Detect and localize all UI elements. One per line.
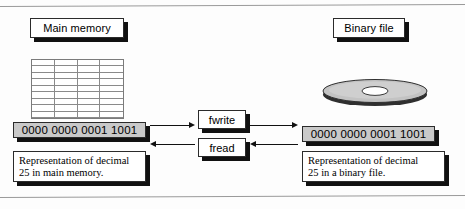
memory-cell [55, 112, 78, 118]
caption-binary-file-line2: 25 in a binary file. [308, 167, 439, 179]
main-memory-grid [31, 59, 124, 119]
arrow-fread-to-memory [150, 141, 195, 148]
disk-platter-icon [322, 78, 428, 108]
memory-binary-bar: 0000 0000 0001 1001 [13, 122, 146, 138]
file-binary-bar: 0000 0000 0001 1001 [302, 126, 435, 142]
figure-canvas: Main memory Binary file 0000 0000 0001 1… [0, 0, 465, 209]
bottom-rule [0, 195, 465, 198]
file-binary-text: 0000 0000 0001 1001 [311, 128, 427, 140]
memory-cell [78, 112, 101, 118]
arrow-shaft [254, 144, 298, 145]
top-rule [0, 4, 465, 7]
arrow-shaft [250, 125, 294, 126]
caption-binary-file: Representation of decimal 25 in a binary… [302, 151, 445, 182]
caption-main-memory: Representation of decimal 25 in main mem… [13, 151, 146, 182]
label-binary-file-text: Binary file [344, 22, 393, 34]
arrow-memory-to-fwrite [150, 122, 195, 129]
label-main-memory-text: Main memory [43, 22, 111, 34]
arrow-head [292, 122, 298, 128]
label-binary-file: Binary file [333, 18, 405, 38]
memory-cell [32, 112, 55, 118]
arrow-file-to-fread [250, 141, 298, 148]
fread-label: fread [209, 142, 234, 154]
caption-main-memory-line1: Representation of decimal [19, 155, 140, 167]
arrow-shaft [150, 125, 191, 126]
caption-main-memory-line2: 25 in main memory. [19, 167, 140, 179]
arrow-head [250, 141, 256, 147]
arrow-fwrite-to-file [250, 122, 298, 129]
label-main-memory: Main memory [30, 18, 124, 38]
arrow-shaft [154, 144, 195, 145]
arrow-head [150, 141, 156, 147]
fread-box: fread [198, 138, 246, 157]
memory-binary-text: 0000 0000 0001 1001 [22, 124, 138, 136]
arrow-head [189, 122, 195, 128]
memory-cell [100, 112, 123, 118]
fwrite-box: fwrite [198, 110, 246, 129]
fwrite-label: fwrite [209, 114, 235, 126]
caption-binary-file-line1: Representation of decimal [308, 155, 439, 167]
